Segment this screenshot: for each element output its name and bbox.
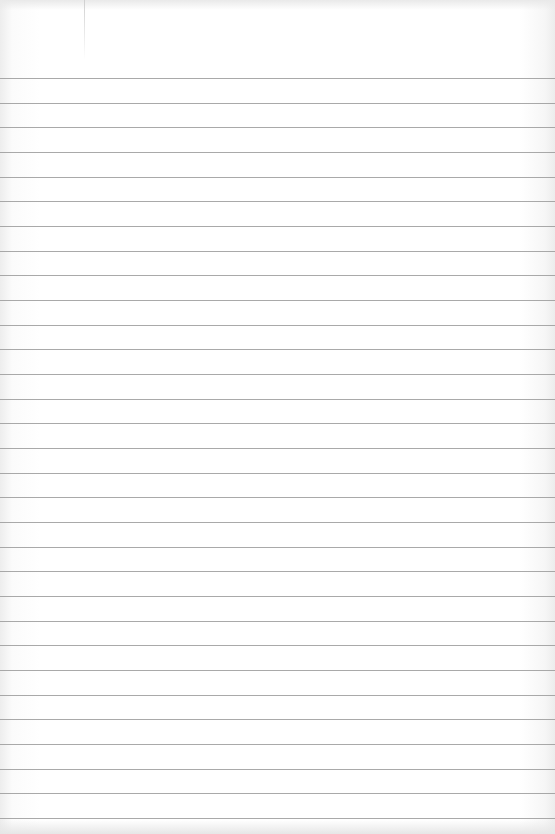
ruled-line [0,522,555,523]
ruled-line [0,473,555,474]
ruled-line [0,645,555,646]
ruled-line [0,201,555,202]
ruled-line [0,818,555,819]
ruled-line [0,448,555,449]
ruled-line [0,769,555,770]
ruled-line [0,251,555,252]
ruled-line [0,349,555,350]
ruled-line [0,596,555,597]
ruled-line [0,497,555,498]
ruled-line [0,621,555,622]
ruled-line [0,719,555,720]
ruled-line [0,226,555,227]
ruled-line [0,695,555,696]
ruled-line [0,547,555,548]
margin-line [84,0,85,60]
ruled-line [0,744,555,745]
ruled-line [0,399,555,400]
ruled-line [0,571,555,572]
ruled-line [0,177,555,178]
ruled-line [0,374,555,375]
ruled-line [0,300,555,301]
ruled-line [0,103,555,104]
lined-paper-sheet [0,0,555,834]
ruled-line [0,275,555,276]
ruled-line [0,793,555,794]
ruled-line [0,423,555,424]
ruled-line [0,78,555,79]
ruled-line [0,127,555,128]
ruled-line [0,325,555,326]
ruled-line [0,670,555,671]
ruled-line [0,152,555,153]
